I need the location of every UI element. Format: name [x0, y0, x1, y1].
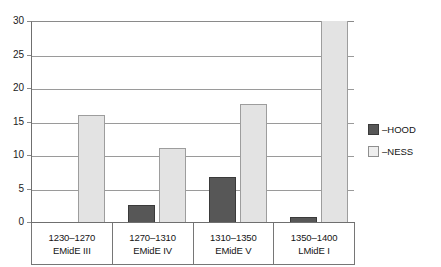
category-phase-label: EMidE III — [53, 244, 91, 257]
category-range-label: 1350–1400 — [291, 231, 338, 244]
category-cell-emide-iii: 1230–1270 EMidE III — [32, 223, 113, 264]
category-cell-emide-v: 1310–1350 EMidE V — [194, 223, 275, 264]
category-cell-lmide-i: 1350–1400 LMidE I — [274, 223, 354, 264]
category-range-label: 1230–1270 — [49, 231, 96, 244]
y-tick-label-0: 0 — [0, 217, 24, 227]
category-label-table: 1230–1270 EMidE III 1270–1310 EMidE IV 1… — [31, 223, 355, 265]
bar-ness-1270-1310 — [159, 148, 186, 223]
plot-area — [31, 21, 354, 223]
y-tick-label-30: 30 — [0, 16, 24, 26]
category-range-label: 1310–1350 — [210, 231, 257, 244]
y-tick-label-5: 5 — [0, 184, 24, 194]
legend-item-hood: –HOOD — [368, 118, 438, 140]
legend-swatch-hood-icon — [368, 124, 379, 135]
legend: –HOOD –NESS — [368, 118, 438, 162]
y-tick-label-10: 10 — [0, 150, 24, 160]
category-phase-label: EMidE IV — [133, 244, 172, 257]
bar-ness-1310-1350 — [240, 104, 267, 223]
category-range-label: 1270–1310 — [129, 231, 176, 244]
category-cell-emide-iv: 1270–1310 EMidE IV — [113, 223, 194, 264]
legend-label-ness: –NESS — [382, 146, 413, 157]
y-tick-label-15: 15 — [0, 117, 24, 127]
bar-ness-1350-1400 — [321, 21, 348, 223]
legend-swatch-ness-icon — [368, 146, 379, 157]
gridline-20 — [32, 89, 354, 90]
bar-hood-1270-1310 — [128, 205, 155, 223]
category-phase-label: EMidE V — [215, 244, 251, 257]
gridline-25 — [32, 56, 354, 57]
bar-ness-1230-1270 — [78, 115, 105, 223]
legend-label-hood: –HOOD — [382, 124, 416, 135]
y-tick-label-25: 25 — [0, 50, 24, 60]
bar-hood-1310-1350 — [209, 177, 236, 223]
category-phase-label: LMidE I — [298, 244, 330, 257]
y-tick-label-20: 20 — [0, 83, 24, 93]
legend-item-ness: –NESS — [368, 140, 438, 162]
bar-chart: 30 25 20 15 10 5 0 — [0, 0, 441, 267]
